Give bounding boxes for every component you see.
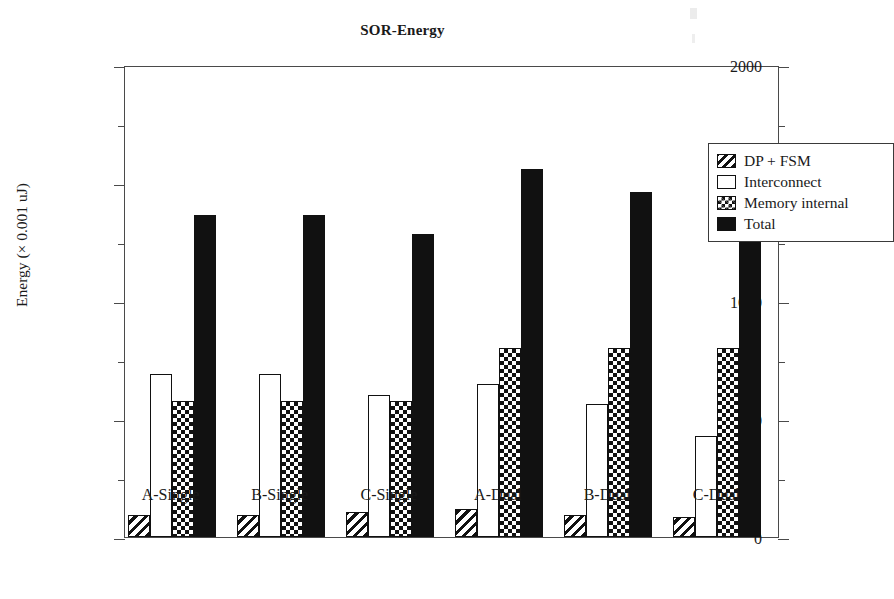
x-tick-label: C-Single — [329, 486, 449, 504]
bar-interconnect — [259, 374, 281, 537]
bar-memory-internal — [608, 348, 630, 537]
bar-memory-internal — [499, 348, 521, 537]
y-tick-label: 2000 — [730, 59, 762, 75]
bar-memory-internal — [172, 401, 194, 537]
x-tick-label: A-Dual — [438, 486, 558, 504]
plot-area: 0500100015002000 DP + FSMInterconnectMem… — [124, 66, 779, 538]
legend-swatch-interconnect — [717, 175, 736, 189]
legend-swatch-total — [717, 217, 736, 231]
legend-swatch-memory-internal — [717, 196, 736, 210]
y-tick-minor — [118, 126, 125, 127]
bar-dp-fsm — [346, 512, 368, 537]
x-tick-label: B-Dual — [547, 486, 667, 504]
y-tick-minor-right — [778, 480, 785, 481]
chart-title: SOR-Energy — [0, 22, 805, 39]
y-tick-major — [114, 421, 125, 422]
y-tick-minor — [118, 244, 125, 245]
y-tick-major — [114, 185, 125, 186]
bar-dp-fsm — [237, 515, 259, 537]
y-tick-major-right — [778, 303, 789, 304]
legend-label: Memory internal — [744, 195, 849, 211]
y-tick-major-right — [778, 67, 789, 68]
y-tick-major-right — [778, 421, 789, 422]
x-tick-label: B-Single — [220, 486, 340, 504]
legend-label: Interconnect — [744, 174, 821, 190]
legend-row: DP + FSM — [717, 150, 885, 171]
bar-dp-fsm — [564, 515, 586, 537]
bar-interconnect — [477, 384, 499, 537]
y-tick-minor — [118, 362, 125, 363]
bar-interconnect — [586, 404, 608, 537]
bar-memory-internal — [281, 401, 303, 537]
y-tick-minor-right — [778, 126, 785, 127]
chart-legend: DP + FSMInterconnectMemory internalTotal — [708, 143, 894, 242]
y-tick-minor-right — [778, 244, 785, 245]
x-tick-label: C-Dual — [656, 486, 776, 504]
bar-interconnect — [368, 395, 390, 537]
bar-interconnect — [150, 374, 172, 537]
bar-memory-internal — [390, 401, 412, 537]
bar-total — [521, 169, 543, 537]
legend-row: Total — [717, 213, 885, 234]
y-tick-minor — [118, 480, 125, 481]
bar-dp-fsm — [455, 509, 477, 537]
bar-memory-internal — [717, 348, 739, 537]
legend-label: Total — [744, 216, 776, 232]
legend-swatch-dp-fsm — [717, 154, 736, 168]
bar-dp-fsm — [673, 517, 695, 537]
y-tick-minor-right — [778, 362, 785, 363]
y-tick-major — [114, 67, 125, 68]
legend-label: DP + FSM — [744, 153, 811, 169]
x-tick-label: A-Single — [111, 486, 231, 504]
scan-artifact-1 — [690, 8, 697, 19]
y-tick-major — [114, 539, 125, 540]
y-axis-label: Energy (× 0.001 uJ) — [13, 45, 31, 445]
legend-row: Memory internal — [717, 192, 885, 213]
bar-dp-fsm — [128, 515, 150, 537]
legend-row: Interconnect — [717, 171, 885, 192]
y-tick-major — [114, 303, 125, 304]
y-tick-major-right — [778, 539, 789, 540]
